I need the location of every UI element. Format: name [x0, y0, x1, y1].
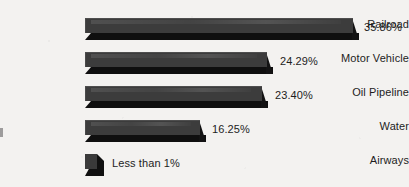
- category-label-airways: Airways: [329, 154, 409, 167]
- bar-face: [85, 52, 267, 67]
- bar-face: [85, 18, 353, 33]
- bar-chart: Railroad 35.86% Motor Vehicle 24.29% Oil…: [0, 0, 409, 187]
- value-label-airways: Less than 1%: [112, 157, 180, 170]
- scan-edge-artifact: [0, 128, 3, 137]
- value-label-oil-pipeline: 23.40%: [275, 89, 313, 102]
- bar-bevel-bottom: [85, 135, 206, 142]
- category-label-water: Water: [329, 120, 409, 133]
- bar-bevel-bottom: [85, 33, 359, 40]
- category-label-oil-pipeline: Oil Pipeline: [329, 86, 409, 99]
- category-label-motor-vehicle: Motor Vehicle: [329, 52, 409, 65]
- bar-bevel-bottom: [85, 67, 273, 74]
- value-label-water: 16.25%: [212, 123, 250, 136]
- bar-bevel-right: [199, 120, 206, 142]
- bar-bevel-bottom: [85, 101, 268, 108]
- bar-face: [85, 120, 200, 135]
- bar-face: [85, 154, 97, 169]
- value-label-motor-vehicle: 24.29%: [280, 55, 318, 68]
- value-label-railroad: 35.86%: [364, 21, 402, 34]
- bar-face: [85, 86, 262, 101]
